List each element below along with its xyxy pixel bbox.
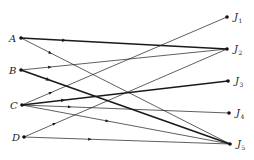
arrow-icon-c-j4 [68, 105, 72, 108]
arrow-icon-d-j5 [88, 138, 92, 141]
node-label-subscript: 5 [242, 144, 246, 151]
node-label-a: A [8, 33, 16, 44]
node-label-j2: J2 [232, 43, 243, 56]
node-j5 [228, 142, 232, 146]
node-label-j3: J3 [233, 75, 244, 88]
node-label-subscript: 2 [239, 49, 243, 56]
edge-a-j2 [21, 38, 227, 49]
node-label-subscript: 1 [239, 17, 243, 24]
node-j3 [226, 79, 230, 83]
node-label-j5: J5 [235, 138, 246, 151]
node-j4 [227, 111, 231, 115]
node-label-c: C [10, 100, 18, 111]
node-label-subscript: 3 [240, 81, 244, 88]
arrow-icon-c-j5 [105, 119, 109, 122]
node-label-b: B [8, 65, 16, 76]
node-j1 [225, 15, 229, 19]
edge-b-j2 [21, 49, 227, 70]
node-a [19, 36, 23, 40]
labels-layer: ABCDJ1J2J3J4J5 [8, 11, 246, 151]
node-label-j1: J1 [232, 11, 242, 24]
node-label-d: D [11, 132, 20, 143]
edges-layer [21, 17, 230, 144]
edge-c-j1 [22, 17, 227, 105]
edge-b-j5 [21, 70, 230, 144]
node-label-subscript: 4 [241, 113, 245, 120]
bipartite-graph: ABCDJ1J2J3J4J5 [0, 0, 254, 160]
node-c [20, 103, 24, 107]
arrow-icon-b-j5 [46, 77, 50, 80]
node-d [22, 135, 26, 139]
arrow-icon-a-j2 [62, 38, 66, 42]
edge-a-j5 [21, 38, 230, 144]
node-j2 [225, 47, 229, 51]
node-label-j4: J4 [234, 107, 245, 120]
node-b [19, 68, 23, 72]
